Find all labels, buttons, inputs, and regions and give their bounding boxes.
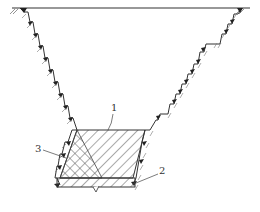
right-stepped-slope bbox=[133, 8, 242, 185]
ground-surface-line bbox=[10, 8, 250, 14]
diagram-canvas bbox=[0, 0, 260, 212]
leader-line-1 bbox=[108, 114, 113, 130]
label-2: 2 bbox=[159, 166, 165, 176]
leader-line-2 bbox=[136, 174, 158, 183]
right-slope-markers bbox=[131, 8, 243, 186]
label-1: 1 bbox=[111, 103, 117, 113]
label-3: 3 bbox=[35, 144, 41, 154]
right-slope-soil-hatch bbox=[135, 13, 237, 190]
base-layer bbox=[57, 178, 135, 192]
excavation-cross-section-figure: 1 2 3 bbox=[0, 0, 260, 212]
figure-caption bbox=[70, 202, 220, 210]
left-slope-markers bbox=[20, 8, 73, 188]
